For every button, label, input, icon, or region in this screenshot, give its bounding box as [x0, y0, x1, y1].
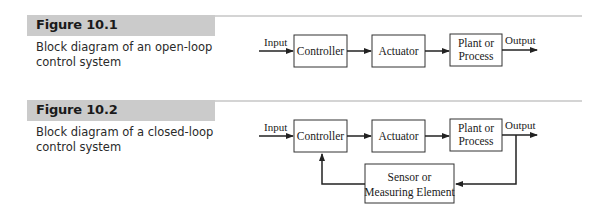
input-label: Input — [264, 36, 287, 48]
plant-label-line-1: Plant or — [458, 37, 494, 49]
sensor-label-line-2: Measuring Element — [364, 186, 455, 199]
plant-label-line-2: Process — [458, 135, 494, 147]
actuator-label: Actuator — [378, 45, 418, 57]
block-diagrams: Input Controller Actuator Plant or Proce… — [0, 0, 607, 215]
feedback-arrow-to-controller — [322, 154, 365, 184]
plant-label-line-2: Process — [458, 50, 494, 62]
controller-label: Controller — [297, 130, 344, 142]
controller-label: Controller — [297, 45, 344, 57]
figure-1-diagram: Input Controller Actuator Plant or Proce… — [259, 34, 537, 67]
figure-2-diagram: Input Controller Actuator Plant or Proce… — [259, 119, 537, 203]
output-label: Output — [505, 119, 536, 131]
actuator-label: Actuator — [378, 130, 418, 142]
input-label: Input — [264, 121, 287, 133]
plant-label-line-1: Plant or — [458, 122, 494, 134]
sensor-label-line-1: Sensor or — [388, 171, 432, 183]
output-label: Output — [505, 34, 536, 46]
